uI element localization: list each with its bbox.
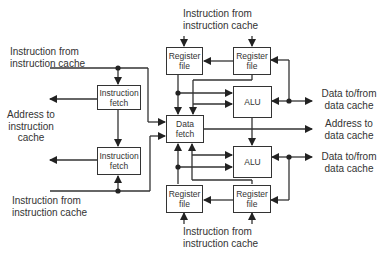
label-line: cache [6,132,56,144]
alu-bottom-block: ALU [233,146,272,178]
label-line: Address to [6,109,56,121]
label-line: Instruction from [183,226,258,238]
block-label: Register file [234,51,270,71]
label-address-to-instr-cache: Address to instruction cache [6,109,56,144]
block-label: Register file [167,189,202,209]
block-label: ALU [244,157,261,167]
alu-top-block: ALU [233,86,272,118]
instruction-fetch-top-block: Instruction fetch [97,85,141,110]
label-data-to-from-cache-bottom: Data to/from data cache [316,151,382,174]
block-label: Instruction fetch [98,151,140,171]
label-line: instruction cache [12,207,87,219]
label-instr-from-cache-left-top: Instruction from instruction cache [10,46,85,69]
register-file-top-right-block: Register file [233,47,271,75]
label-line: instruction cache [183,238,258,250]
instruction-fetch-bottom-block: Instruction fetch [97,147,141,175]
label-line: Instruction from [183,8,258,20]
block-label: Register file [167,51,202,71]
label-instr-from-cache-bottom: Instruction from instruction cache [183,226,258,249]
label-line: instruction cache [183,20,258,32]
block-label: Instruction fetch [98,88,140,108]
register-file-top-left-block: Register file [166,47,203,75]
block-label: Register file [234,189,270,209]
label-line: instruction [6,121,56,133]
label-instr-from-cache-top: Instruction from instruction cache [183,8,258,31]
label-line: instruction cache [10,58,85,70]
label-line: Instruction from [10,46,85,58]
label-address-to-data-cache: Address to data cache [316,118,382,141]
label-data-to-from-cache-top: Data to/from data cache [316,88,382,111]
block-label: Data fetch [167,119,203,139]
label-instr-from-cache-left-bottom: Instruction from instruction cache [12,195,87,218]
data-fetch-block: Data fetch [166,115,204,143]
label-line: Data to/from [316,88,382,100]
label-line: data cache [316,130,382,142]
register-file-bottom-left-block: Register file [166,185,203,213]
label-line: data cache [316,100,382,112]
label-line: data cache [316,163,382,175]
label-line: Data to/from [316,151,382,163]
label-line: Address to [316,118,382,130]
register-file-bottom-right-block: Register file [233,185,271,213]
block-label: ALU [244,97,261,107]
label-line: Instruction from [12,195,87,207]
